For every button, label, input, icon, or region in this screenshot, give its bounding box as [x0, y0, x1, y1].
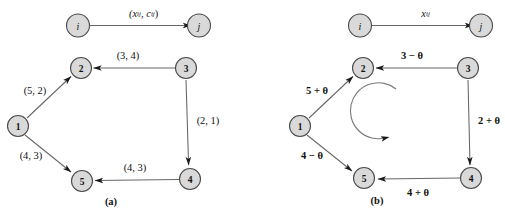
panel-a-node-1-label: 1	[16, 122, 21, 132]
panel-b-node-1-label: 1	[298, 122, 303, 132]
panel-a-edge-1-5-label: (4, 3)	[20, 150, 43, 162]
panel-b-edge-4-5-label: 4 + θ	[407, 187, 429, 198]
panel-b-nodes: 1 2 3 4 5	[290, 58, 482, 189]
panel-a-node-4-label: 4	[188, 175, 193, 185]
panel-b-node-2-label: 2	[361, 64, 366, 74]
panel-b-edge-3-4	[468, 80, 470, 165]
counterclockwise-cycle-arrow-icon	[350, 83, 396, 139]
panel-a-node-3-label: 3	[184, 64, 189, 74]
panel-b-edge-1-2	[309, 77, 353, 119]
panel-a-edge-1-2-label: (5, 2)	[24, 85, 47, 97]
panel-a-caption: (a)	[105, 196, 118, 208]
figure-canvas: (xij, cij) i j (3, 4) (5, 2) (2, 1)	[0, 0, 505, 217]
panel-a-edge-3-4	[186, 80, 189, 165]
panel-b-edge-3-4-label: 2 + θ	[478, 115, 500, 126]
panel-b-node-4-label: 4	[469, 174, 474, 184]
panel-a-edge-4-5-label: (4, 3)	[124, 162, 147, 174]
panel-b-edge-3-2-label: 3 − θ	[401, 50, 423, 61]
panel-a-edge-1-2	[27, 77, 71, 119]
panel-b-legend-label: xij	[392, 8, 453, 19]
panel-a-legend-label: (xij, cij)	[100, 8, 182, 20]
panel-b-node-5-label: 5	[362, 174, 367, 184]
panel-b-edge-4-5	[378, 178, 460, 179]
panel-b: xij i j 3 − θ 5 + θ 2 + θ	[290, 8, 501, 207]
panel-b-caption: (b)	[371, 195, 384, 207]
legend-b-x-sub: ij	[426, 10, 430, 18]
panel-b-node-i-label: i	[359, 21, 362, 32]
panel-a-edge-3-4-label: (2, 1)	[197, 115, 220, 127]
network-flow-figure: (xij, cij) i j (3, 4) (5, 2) (2, 1)	[0, 0, 505, 217]
panel-a-legend: (xij, cij) i j	[67, 8, 211, 38]
panel-b-legend: xij i j	[349, 8, 493, 38]
panel-a-nodes: 1 2 3 4 5	[8, 58, 201, 192]
panel-a-edge-4-5	[95, 180, 179, 181]
panel-a-node-i-label: i	[77, 21, 80, 32]
panel-a-node-2-label: 2	[79, 64, 84, 74]
panel-b-edge-1-2-label: 5 + θ	[306, 85, 328, 96]
panel-b-node-3-label: 3	[466, 64, 471, 74]
panel-a-node-5-label: 5	[80, 177, 85, 187]
panel-b-edge-1-5-label: 4 − θ	[301, 150, 323, 161]
panel-a: (xij, cij) i j (3, 4) (5, 2) (2, 1)	[8, 8, 220, 208]
panel-a-edge-3-2-label: (3, 4)	[117, 50, 140, 62]
